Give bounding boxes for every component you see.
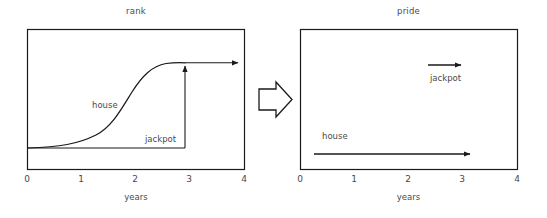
panel-left-xtick-1: 1 [74,174,88,184]
panel-right-label-jackpot: jackpot [430,73,461,83]
panel-right-xtick-2: 2 [401,174,415,184]
panel-left-xtick-3: 3 [182,174,196,184]
panel-left-xtick-4: 4 [237,174,251,184]
panel-right-xlabel: years [300,192,517,202]
panel-left-title: rank [27,6,245,16]
panel-left-plot [0,0,547,218]
panel-right-label-house: house [322,131,348,141]
transition-arrow-svg [0,0,547,218]
panel-right-title: pride [300,6,517,16]
panel-right-xtick-3: 3 [455,174,469,184]
panel-right-frame [301,30,518,170]
panel-right-plot [0,0,547,218]
panel-right-xtick-1: 1 [347,174,361,184]
panel-left-xtick-0: 0 [20,174,34,184]
panel-left-label-jackpot: jackpot [145,134,176,144]
panel-left-xtick-2: 2 [128,174,142,184]
figure-root: rank house jackpot 0 [0,0,547,218]
panel-left-xlabel: years [27,192,245,202]
block-arrow-right-icon [259,82,292,117]
panel-right-xtick-0: 0 [293,174,307,184]
panel-right-xtick-4: 4 [510,174,524,184]
panel-left-frame [28,30,245,170]
panel-left-label-house: house [92,100,118,110]
